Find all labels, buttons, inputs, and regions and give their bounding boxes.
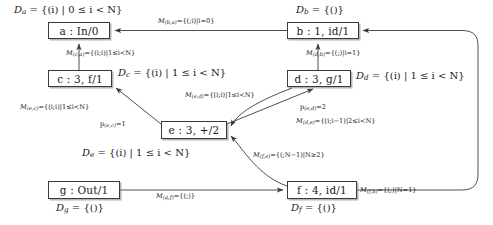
domain-f-rhs: = {()} — [302, 202, 337, 213]
edge-f-to-b — [357, 31, 478, 191]
domain-e-rhs: = {(i) | 1 ≤ i < N} — [94, 147, 190, 158]
domain-label-b: Db = {()} — [296, 5, 344, 16]
domain-f-symbol: D — [291, 202, 299, 213]
node-b-label: b : 1, id/1 — [297, 25, 350, 37]
edge-label-d-to-b-symbol: M — [306, 49, 313, 57]
edge-label-d-to-e: M(d,e)={(i;i−1)|2≤i<N} — [296, 118, 375, 125]
edge-label-d-to-b-subscript: (d,b) — [313, 51, 325, 57]
domain-d-rhs: = {(i) | 1 ≤ i < N} — [369, 70, 465, 81]
node-f[interactable]: f : 4, id/1 — [287, 181, 357, 199]
priority-label-e-to-d-subscript: (e,d) — [304, 105, 316, 111]
node-g-label: g : Out/1 — [60, 184, 109, 196]
domain-c-rhs: = {(i) | 1 ≤ i < N} — [130, 67, 226, 78]
edge-label-e-to-c-symbol: M — [20, 103, 27, 111]
edge-label-c-to-a-symbol: M — [66, 49, 73, 57]
domain-label-c: Dc = {(i) | 1 ≤ i < N} — [118, 68, 226, 79]
node-e-label: e : 3, +/2 — [169, 124, 220, 136]
domain-label-e: De = {(i) | 1 ≤ i < N} — [82, 148, 190, 159]
node-d-label: d : 3, g/1 — [294, 73, 343, 85]
node-c[interactable]: c : 3, f/1 — [48, 70, 112, 87]
edge-label-d-to-b: M(d,b)={(;)|i=1} — [306, 50, 360, 57]
edge-label-e-to-c-subscript: (e,c) — [27, 105, 39, 111]
edge-label-d-to-e-subscript: (d,e) — [303, 119, 315, 125]
edge-label-g-to-f-subscript: (g,f) — [163, 194, 174, 200]
node-b[interactable]: b : 1, id/1 — [287, 22, 359, 39]
priority-label-e-to-c-subscript: (e,c) — [104, 122, 116, 128]
edge-label-e-to-d-subscript: (e,d) — [192, 93, 204, 99]
domain-g-symbol: D — [56, 202, 64, 213]
domain-c-symbol: D — [118, 67, 126, 78]
edge-label-e-to-d: M(e,d)={(i;i)|1≤i<N} — [185, 92, 255, 99]
edge-label-f-to-b-symbol: M — [360, 186, 367, 194]
domain-b-rhs: = {()} — [309, 4, 344, 15]
domain-label-g: Dg = {()} — [56, 203, 104, 214]
edge-label-f-to-b-rhs: ={(;)|N=1} — [378, 186, 417, 194]
priority-label-e-to-c: p(e,c)=1 — [100, 121, 126, 128]
edge-label-g-to-f: M(g,f)={(;)} — [156, 193, 195, 200]
edge-label-d-to-b-rhs: ={(;)|i=1} — [325, 49, 360, 57]
edge-label-c-to-a: M(c,a)={(i;i)|1≤i<N} — [66, 50, 135, 57]
edge-e-to-c — [116, 88, 161, 124]
edge-label-b-to-a: M(b,a)={(;i)|i=0} — [158, 18, 214, 25]
edge-label-g-to-f-symbol: M — [156, 192, 163, 200]
node-e[interactable]: e : 3, +/2 — [161, 121, 227, 139]
edge-label-f-to-e-rhs: ={(;N−1)|N≥2} — [270, 151, 324, 159]
diagram-canvas: a : In/0 b : 1, id/1 c : 3, f/1 d : 3, g… — [0, 0, 493, 225]
edge-label-e-to-c-rhs: ={(i;i)|1≤i<N} — [38, 103, 89, 111]
domain-b-symbol: D — [296, 4, 304, 15]
edge-label-c-to-a-subscript: (c,a) — [73, 51, 85, 57]
edge-label-d-to-e-symbol: M — [296, 117, 303, 125]
domain-g-rhs: = {()} — [69, 202, 104, 213]
node-a-label: a : In/0 — [59, 25, 98, 37]
domain-e-symbol: D — [82, 147, 90, 158]
edge-label-e-to-d-symbol: M — [185, 91, 192, 99]
domain-a-symbol: D — [14, 4, 22, 15]
priority-label-e-to-d-rhs: =2 — [316, 103, 326, 111]
domain-d-symbol: D — [356, 70, 364, 81]
edge-label-d-to-e-rhs: ={(i;i−1)|2≤i<N} — [315, 117, 376, 125]
edge-label-f-to-b-subscript: (f,b) — [367, 188, 378, 194]
priority-label-e-to-d: p(e,d)=2 — [300, 104, 326, 111]
edge-label-g-to-f-rhs: ={(;)} — [174, 192, 195, 200]
node-c-label: c : 3, f/1 — [57, 73, 103, 85]
edge-label-c-to-a-rhs: ={(i;i)|1≤i<N} — [84, 49, 135, 57]
edge-label-f-to-b: M(f,b)={(;)|N=1} — [360, 187, 417, 194]
edge-label-f-to-e-subscript: (f,e) — [260, 153, 271, 159]
domain-label-d: Dd = {(i) | 1 ≤ i < N} — [356, 71, 465, 82]
edge-label-b-to-a-subscript: (b,a) — [165, 19, 177, 25]
edge-label-e-to-c: M(e,c)={(i;i)|1≤i<N} — [20, 104, 89, 111]
edge-f-to-e — [231, 136, 287, 186]
node-d[interactable]: d : 3, g/1 — [287, 70, 351, 87]
domain-a-rhs: = {(i) | 0 ≤ i < N} — [26, 4, 122, 15]
domain-label-f: Df = {()} — [291, 203, 337, 214]
domain-label-a: Da = {(i) | 0 ≤ i < N} — [14, 5, 122, 16]
edge-label-b-to-a-rhs: ={(;i)|i=0} — [177, 17, 214, 25]
priority-label-e-to-c-rhs: =1 — [116, 120, 126, 128]
edge-label-f-to-e: M(f,e)={(;N−1)|N≥2} — [253, 152, 325, 159]
node-g[interactable]: g : Out/1 — [48, 181, 120, 199]
node-f-label: f : 4, id/1 — [297, 184, 347, 196]
node-a[interactable]: a : In/0 — [48, 22, 110, 39]
edge-label-f-to-e-symbol: M — [253, 151, 260, 159]
edge-label-b-to-a-symbol: M — [158, 17, 165, 25]
edge-label-e-to-d-rhs: ={(i;i)|1≤i<N} — [204, 91, 255, 99]
